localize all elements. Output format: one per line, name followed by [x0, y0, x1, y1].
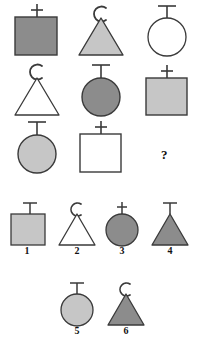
- shape-triangle: [59, 214, 95, 245]
- topper-tee-icon: [70, 283, 84, 294]
- shape-circle: [18, 135, 56, 173]
- figure-svg: [70, 120, 132, 178]
- answer-option-2[interactable]: 2: [54, 196, 100, 258]
- matrix-cell-r3c1[interactable]: [6, 120, 68, 178]
- figure-square-dark-plus: [6, 2, 68, 60]
- figure-svg: [6, 2, 68, 60]
- figure-svg: [70, 62, 132, 120]
- shape-triangle: [108, 294, 144, 325]
- figure-circle-light-tee: [6, 120, 68, 178]
- answer-option-3[interactable]: 3: [99, 196, 145, 258]
- matrix-cell-r3c3-missing[interactable]: ?: [136, 120, 198, 178]
- answer-option-5[interactable]: 5: [54, 276, 100, 338]
- matrix-cell-r1c3[interactable]: [136, 2, 198, 60]
- shape-circle: [106, 214, 138, 246]
- figure-triangle-light-arc: [70, 2, 132, 60]
- figure-circle-dark-tee: [70, 62, 132, 120]
- figure-svg: [136, 62, 198, 120]
- figure-triangle-white-arc: [6, 62, 68, 120]
- topper-plus-icon: [95, 121, 107, 135]
- matrix-cell-r2c3[interactable]: [136, 62, 198, 120]
- answer-option-6[interactable]: 6: [103, 276, 149, 338]
- matrix-cell-r2c1[interactable]: [6, 62, 68, 120]
- shape-square: [80, 134, 121, 172]
- figure-circle-white-tee: [136, 2, 198, 60]
- figure-square-light-plus: [136, 62, 198, 120]
- matrix-cell-r1c1[interactable]: [6, 2, 68, 60]
- answer-option-6-label: 6: [103, 326, 149, 336]
- topper-tee-icon: [158, 6, 176, 19]
- matrix-reasoning-puzzle: ? 1 2: [0, 0, 206, 348]
- matrix-cell-r1c2[interactable]: [70, 2, 132, 60]
- topper-tee-icon: [163, 203, 177, 214]
- topper-tee-icon: [28, 122, 46, 135]
- figure-svg: [136, 2, 198, 60]
- answer-option-4[interactable]: 4: [147, 196, 193, 258]
- answer-option-4-label: 4: [147, 246, 193, 256]
- answer-option-1[interactable]: 1: [8, 196, 54, 258]
- shape-square: [146, 78, 187, 115]
- figure-svg: [70, 2, 132, 60]
- shape-triangle: [152, 214, 188, 245]
- topper-tee-icon: [23, 203, 37, 214]
- shape-square: [15, 17, 57, 55]
- answer-option-1-label: 1: [4, 246, 50, 256]
- topper-tee-icon: [92, 65, 110, 78]
- matrix-cell-r3c2[interactable]: [70, 120, 132, 178]
- figure-svg: [6, 62, 68, 120]
- topper-plus-icon: [31, 4, 43, 18]
- topper-arc-c-icon: [120, 283, 130, 296]
- shape-circle: [148, 18, 186, 56]
- question-mark: ?: [161, 148, 168, 161]
- answer-option-3-label: 3: [99, 246, 145, 256]
- matrix-cell-r2c2[interactable]: [70, 62, 132, 120]
- topper-plus-icon: [117, 202, 127, 214]
- figure-svg: [6, 120, 68, 178]
- topper-plus-icon: [161, 65, 173, 79]
- answer-option-2-label: 2: [54, 246, 100, 256]
- shape-triangle: [15, 78, 59, 115]
- shape-circle: [61, 294, 93, 326]
- figure-square-white-plus: [70, 120, 132, 178]
- shape-triangle: [79, 18, 123, 55]
- shape-square: [11, 214, 45, 245]
- answer-option-5-label: 5: [54, 326, 100, 336]
- topper-arc-c-icon: [71, 203, 81, 216]
- topper-arc-c-icon: [30, 65, 42, 80]
- shape-circle: [82, 78, 120, 116]
